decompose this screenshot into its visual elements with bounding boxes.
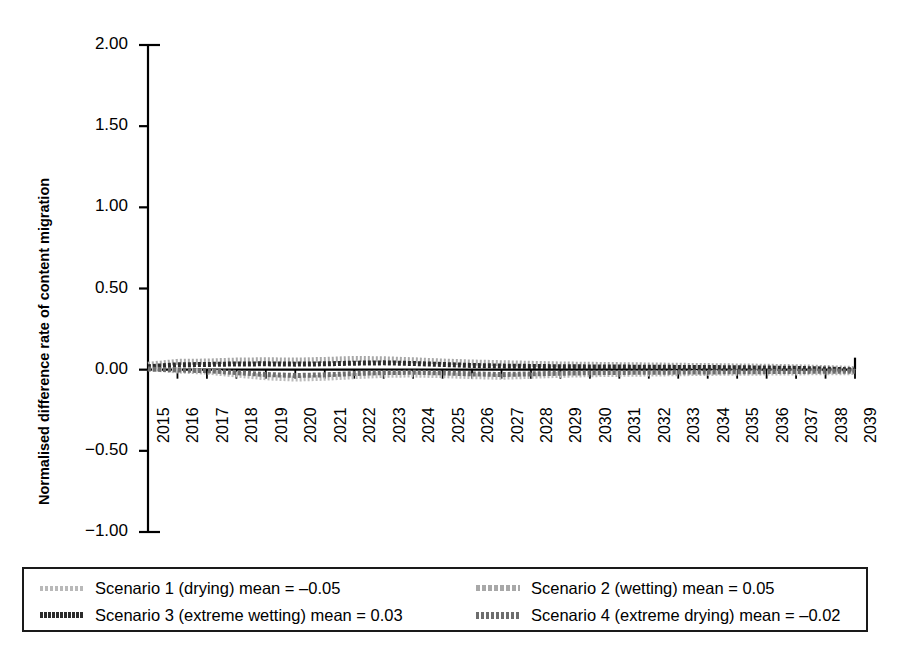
plot-area <box>0 0 907 659</box>
legend-label: Scenario 1 (drying) mean = –0.05 <box>95 580 340 597</box>
legend-label: Scenario 3 (extreme wetting) mean = 0.03 <box>95 607 403 624</box>
legend-item[interactable]: Scenario 3 (extreme wetting) mean = 0.03 <box>40 602 403 628</box>
legend-item[interactable]: Scenario 2 (wetting) mean = 0.05 <box>476 575 775 601</box>
chart-figure: Normalised difference rate of content mi… <box>0 0 907 659</box>
legend-item[interactable]: Scenario 4 (extreme drying) mean = –0.02 <box>476 602 841 628</box>
legend-item[interactable]: Scenario 1 (drying) mean = –0.05 <box>40 575 340 601</box>
legend-label: Scenario 4 (extreme drying) mean = –0.02 <box>531 607 841 624</box>
legend-swatch <box>40 586 84 591</box>
legend-swatch <box>40 612 84 618</box>
legend-swatch <box>476 585 520 591</box>
legend-label: Scenario 2 (wetting) mean = 0.05 <box>531 580 775 597</box>
legend: Scenario 1 (drying) mean = –0.05Scenario… <box>22 567 868 632</box>
axes-spines <box>139 45 855 532</box>
legend-swatch <box>476 612 520 619</box>
